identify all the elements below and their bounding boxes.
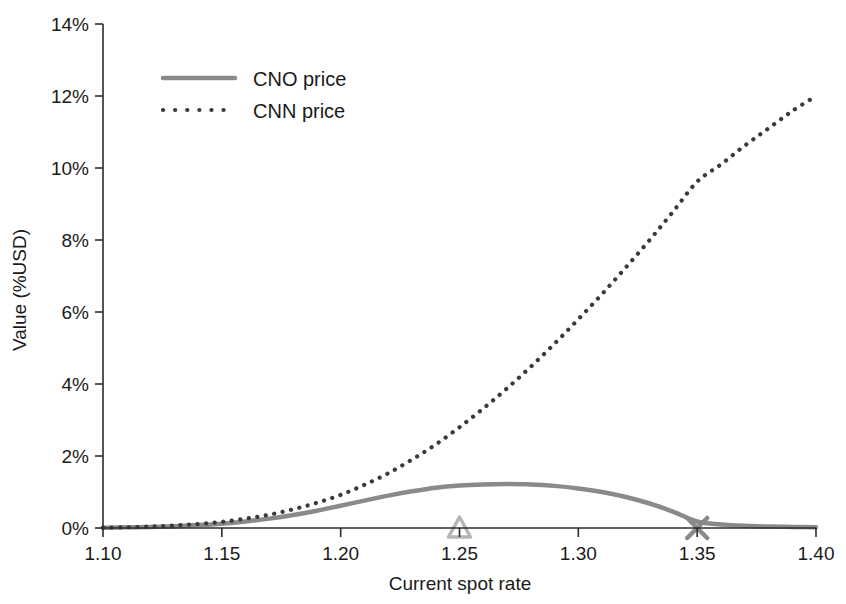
legend-label-cnn-price: CNN price	[253, 100, 345, 122]
chart-plot: 0%2%4%6%8%10%12%14% 1.101.151.201.251.30…	[0, 0, 846, 604]
y-tick-label: 6%	[62, 302, 90, 323]
x-tick-label: 1.25	[441, 543, 478, 564]
y-tick-label: 8%	[62, 230, 90, 251]
legend-label-cno-price: CNO price	[253, 68, 346, 90]
y-tick-label: 12%	[51, 86, 89, 107]
x-axis-title: Current spot rate	[389, 573, 532, 594]
y-tick-label: 2%	[62, 446, 90, 467]
y-axis-title: Value (%USD)	[9, 229, 30, 351]
x-tick-label: 1.35	[679, 543, 716, 564]
chart-container: 0%2%4%6%8%10%12%14% 1.101.151.201.251.30…	[0, 0, 846, 604]
y-tick-label: 10%	[51, 158, 89, 179]
y-tick-label: 14%	[51, 14, 89, 35]
x-tick-label: 1.40	[798, 543, 835, 564]
x-tick-label: 1.20	[322, 543, 359, 564]
x-tick-label: 1.30	[560, 543, 597, 564]
y-tick-label: 4%	[62, 374, 90, 395]
x-tick-label: 1.15	[203, 543, 240, 564]
y-tick-label: 0%	[62, 518, 90, 539]
x-tick-label: 1.10	[85, 543, 122, 564]
plot-background	[0, 0, 846, 604]
